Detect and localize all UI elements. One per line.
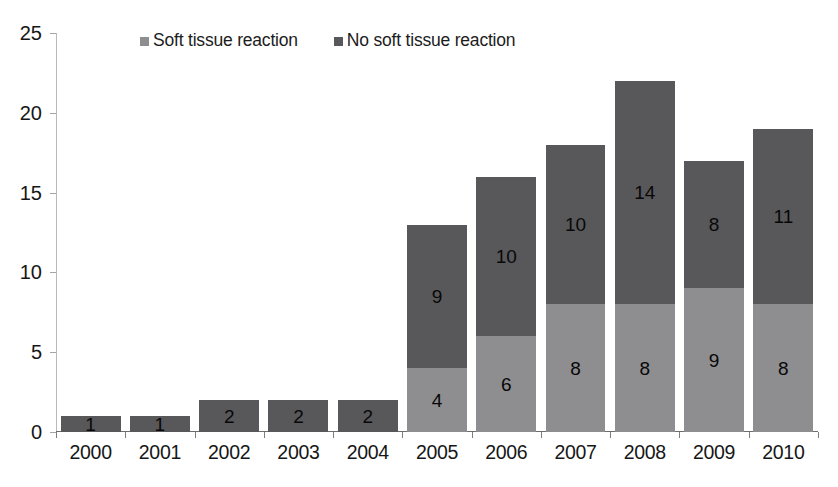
plot-area: 0510152025 12000120012200222003220044920… bbox=[56, 33, 818, 432]
x-axis-tick bbox=[610, 432, 611, 438]
x-axis-tick bbox=[195, 432, 196, 438]
x-axis-tick bbox=[402, 432, 403, 438]
bar-value-label: 1 bbox=[155, 415, 166, 434]
x-axis-category-label: 2004 bbox=[338, 441, 398, 464]
bar-group[interactable]: 492005 bbox=[407, 225, 467, 432]
x-axis-tick bbox=[472, 432, 473, 438]
chart-screenshot: Soft tissue reactionNo soft tissue react… bbox=[0, 0, 838, 487]
bar-value-label: 2 bbox=[293, 407, 304, 426]
bar-group[interactable]: 8112010 bbox=[753, 129, 813, 432]
x-axis-category-label: 2003 bbox=[268, 441, 328, 464]
bar-segment[interactable]: 9 bbox=[407, 225, 467, 369]
y-axis-tick-label: 0 bbox=[31, 421, 42, 444]
x-axis-tick bbox=[264, 432, 265, 438]
bar-value-label: 2 bbox=[362, 407, 373, 426]
x-axis-tick bbox=[125, 432, 126, 438]
bar-segment[interactable]: 6 bbox=[476, 336, 536, 432]
x-axis-category-label: 2007 bbox=[546, 441, 606, 464]
bar-value-label: 10 bbox=[496, 247, 517, 266]
y-axis-tick-label: 5 bbox=[31, 341, 42, 364]
bar-segment[interactable]: 8 bbox=[684, 161, 744, 289]
x-axis-tick bbox=[333, 432, 334, 438]
bar-value-label: 14 bbox=[634, 183, 655, 202]
y-axis-tick-label: 10 bbox=[20, 261, 42, 284]
bar-segment[interactable]: 4 bbox=[407, 368, 467, 432]
y-axis-tick-label: 15 bbox=[20, 181, 42, 204]
y-axis-tick: 5 bbox=[50, 352, 56, 353]
bar-value-label: 8 bbox=[570, 359, 581, 378]
x-axis-tick bbox=[818, 432, 819, 438]
bar-value-label: 10 bbox=[565, 215, 586, 234]
bar-segment[interactable]: 8 bbox=[615, 304, 675, 432]
x-axis-category-label: 2006 bbox=[476, 441, 536, 464]
bar-group[interactable]: 8142008 bbox=[615, 81, 675, 432]
bar-value-label: 1 bbox=[85, 415, 96, 434]
x-axis-category-label: 2009 bbox=[684, 441, 744, 464]
bar-group[interactable]: 22002 bbox=[199, 400, 259, 432]
x-axis-category-label: 2000 bbox=[61, 441, 121, 464]
x-axis-category-label: 2005 bbox=[407, 441, 467, 464]
x-axis-tick bbox=[679, 432, 680, 438]
bar-segment[interactable]: 2 bbox=[268, 400, 328, 432]
y-axis-tick: 25 bbox=[50, 33, 56, 34]
y-axis-tick: 20 bbox=[50, 113, 56, 114]
y-axis-tick-label: 20 bbox=[20, 101, 42, 124]
bar-value-label: 6 bbox=[501, 375, 512, 394]
bar-segment[interactable]: 1 bbox=[61, 416, 121, 432]
x-axis-category-label: 2001 bbox=[130, 441, 190, 464]
bar-value-label: 8 bbox=[640, 359, 651, 378]
bar-group[interactable]: 12001 bbox=[130, 416, 190, 432]
bar-segment[interactable]: 2 bbox=[338, 400, 398, 432]
x-axis-tick bbox=[749, 432, 750, 438]
bar-group[interactable]: 12000 bbox=[61, 416, 121, 432]
bar-value-label: 8 bbox=[709, 215, 720, 234]
bar-group[interactable]: 8102007 bbox=[546, 145, 606, 432]
x-axis-category-label: 2008 bbox=[615, 441, 675, 464]
y-axis-tick: 15 bbox=[50, 193, 56, 194]
bar-value-label: 9 bbox=[432, 287, 443, 306]
x-axis-tick bbox=[56, 432, 57, 438]
bar-segment[interactable]: 1 bbox=[130, 416, 190, 432]
x-axis-category-label: 2010 bbox=[753, 441, 813, 464]
bar-segment[interactable]: 14 bbox=[615, 81, 675, 304]
bar-group[interactable]: 6102006 bbox=[476, 177, 536, 432]
bar-value-label: 4 bbox=[432, 391, 443, 410]
x-axis-category-label: 2002 bbox=[199, 441, 259, 464]
bar-value-label: 2 bbox=[224, 407, 235, 426]
bar-segment[interactable]: 2 bbox=[199, 400, 259, 432]
bar-segment[interactable]: 8 bbox=[546, 304, 606, 432]
bar-segment[interactable]: 10 bbox=[476, 177, 536, 337]
bar-segment[interactable]: 8 bbox=[753, 304, 813, 432]
bar-group[interactable]: 22004 bbox=[338, 400, 398, 432]
y-axis-tick: 10 bbox=[50, 272, 56, 273]
x-axis-tick bbox=[541, 432, 542, 438]
bar-value-label: 11 bbox=[773, 207, 793, 226]
bar-segment[interactable]: 11 bbox=[753, 129, 813, 305]
bar-segment[interactable]: 10 bbox=[546, 145, 606, 305]
bar-group[interactable]: 22003 bbox=[268, 400, 328, 432]
y-axis-line bbox=[56, 33, 57, 432]
bar-value-label: 8 bbox=[778, 359, 789, 378]
y-axis-tick-label: 25 bbox=[20, 22, 42, 45]
bar-value-label: 9 bbox=[709, 351, 720, 370]
bar-group[interactable]: 982009 bbox=[684, 161, 744, 432]
bar-segment[interactable]: 9 bbox=[684, 288, 744, 432]
